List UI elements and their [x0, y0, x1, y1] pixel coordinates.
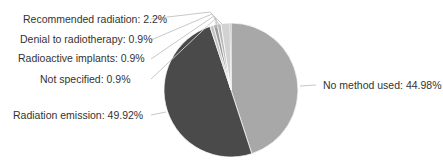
label-radioactive-implants: Radioactive implants: 0.9%	[18, 52, 145, 64]
label-radiation-emission: Radiation emission: 49.92%	[13, 109, 143, 121]
label-recommended-radiation: Recommended radiation: 2.2%	[23, 13, 167, 25]
label-denial-to-radiotherapy: Denial to radiotherapy: 0.9%	[20, 33, 153, 45]
pie-slices	[164, 23, 298, 157]
label-not-specified: Not specified: 0.9%	[40, 73, 130, 85]
label-no-method-used: No method used: 44.98%	[323, 79, 442, 91]
